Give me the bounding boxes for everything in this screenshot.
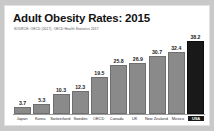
- bar-slot[interactable]: 30.7: [149, 30, 166, 114]
- x-axis-label: New Zealand: [145, 116, 168, 121]
- bar-rect[interactable]: [110, 65, 127, 114]
- bar-slot[interactable]: 12.3: [72, 30, 89, 114]
- x-axis-tick-labels: JapanKoreaSwitzerlandSwedenOECDCanadaUKN…: [13, 116, 205, 121]
- bar-value-label: 32.4: [171, 45, 181, 51]
- bar-value-label: 10.3: [56, 87, 66, 93]
- bar-rect[interactable]: [168, 52, 185, 114]
- bar-value-label: 25.8: [114, 58, 124, 64]
- bar-value-label: 3.7: [19, 100, 26, 106]
- bar-rect[interactable]: [53, 94, 70, 114]
- chart-figure: Adult Obesity Rates: 2015 SOURCE: OECD (…: [0, 0, 214, 131]
- bar-value-label: 30.7: [152, 49, 162, 55]
- x-axis-label: Japan: [14, 116, 30, 121]
- x-axis-label: Sweden: [73, 116, 89, 121]
- bar-value-label: 19.5: [94, 70, 104, 76]
- bar-rect[interactable]: [187, 41, 204, 114]
- bar-slot[interactable]: 5.3: [33, 30, 50, 114]
- x-axis-label: Korea: [32, 116, 48, 121]
- x-axis-label: Switzerland: [50, 116, 70, 121]
- bar-rect[interactable]: [33, 104, 50, 114]
- bar-slot[interactable]: 38.2: [187, 30, 204, 114]
- bar-value-label: 38.2: [190, 34, 200, 40]
- chart-card: Adult Obesity Rates: 2015 SOURCE: OECD (…: [4, 5, 210, 126]
- plot-area: 3.75.310.312.319.525.826.930.732.438.2: [13, 30, 205, 114]
- bar-slot[interactable]: 3.7: [14, 30, 31, 114]
- bar-rect[interactable]: [149, 56, 166, 114]
- bar-value-label: 12.3: [75, 84, 85, 90]
- bar-rect[interactable]: [129, 63, 146, 114]
- bar-value-label: 5.3: [38, 97, 45, 103]
- bar-slot[interactable]: 19.5: [91, 30, 108, 114]
- x-axis-label: UK: [127, 116, 143, 121]
- bar-rect[interactable]: [91, 77, 108, 114]
- x-axis-label: USA: [188, 116, 204, 121]
- bar-rect[interactable]: [72, 91, 89, 114]
- bar-slot[interactable]: 26.9: [129, 30, 146, 114]
- x-axis-label: Mexico: [170, 116, 186, 121]
- bar-slot[interactable]: 32.4: [168, 30, 185, 114]
- bar-slot[interactable]: 25.8: [110, 30, 127, 114]
- bar-slot[interactable]: 10.3: [53, 30, 70, 114]
- x-axis-label: Canada: [109, 116, 125, 121]
- chart-title: Adult Obesity Rates: 2015: [13, 12, 150, 25]
- bar-rect[interactable]: [14, 107, 31, 114]
- bar-series: 3.75.310.312.319.525.826.930.732.438.2: [13, 30, 205, 114]
- bar-value-label: 26.9: [133, 56, 143, 62]
- x-axis-label: OECD: [91, 116, 107, 121]
